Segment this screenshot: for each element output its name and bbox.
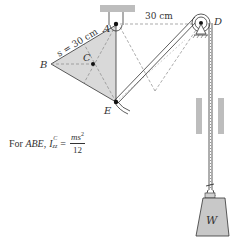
centroid-c [91, 62, 95, 66]
formula-comma: , [44, 138, 47, 149]
rope-tail-e-inner [118, 102, 130, 111]
formula-subscript: zz [53, 143, 58, 149]
numerator-text: ms [71, 132, 81, 142]
formula-numerator: ms2 [70, 131, 85, 144]
label-e: E [103, 105, 112, 116]
formula-fraction: ms2 12 [70, 131, 85, 155]
pin-e [114, 100, 118, 104]
dashed-rope-path [116, 40, 185, 102]
formula-denominator: 12 [73, 144, 82, 155]
ground-hatch [201, 35, 203, 38]
dashed-rotated-d [155, 30, 196, 91]
ground-hatch [205, 35, 207, 38]
formula-equals: = [60, 138, 66, 149]
label-c: C [83, 52, 91, 63]
pivot-a [114, 22, 118, 26]
rope-e-to-d-outer [114, 17, 195, 101]
label-a: A [102, 23, 110, 34]
ceiling-support [100, 5, 135, 12]
dashed-rotated-a [120, 27, 155, 91]
label-w: W [206, 214, 219, 227]
rope-tail-e [115, 103, 128, 114]
label-horizontal-distance: 30 cm [145, 11, 173, 21]
ground-hatch [197, 35, 199, 38]
guide-bar-left [196, 98, 202, 134]
ground-hatch [193, 35, 195, 38]
label-d: D [213, 16, 222, 27]
formula-superscript: C [53, 135, 57, 141]
numerator-power: 2 [81, 131, 84, 137]
label-b: B [39, 59, 47, 70]
formula-prefix: For [9, 138, 25, 149]
rope-e-to-d-inner [118, 21, 197, 103]
pulley-plate-diagram: A B C D E W 30 cm s = 30 cm [0, 0, 236, 243]
formula-body: ABE [25, 138, 43, 149]
moment-of-inertia-formula: For ABE , I zz C = ms2 12 [9, 131, 85, 155]
weight-clamp [205, 193, 215, 198]
guide-bar-right [218, 98, 224, 134]
